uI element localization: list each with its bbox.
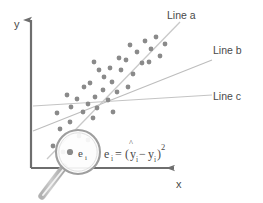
data-point xyxy=(97,68,102,73)
data-point xyxy=(143,39,148,44)
data-point xyxy=(163,42,168,47)
formula-minus: − xyxy=(139,147,146,161)
data-point xyxy=(140,61,145,66)
residual-formula: e i = ( ^ y i − y i ) 2 xyxy=(104,138,165,164)
magnifier: e i xyxy=(42,130,100,196)
magnifier-handle-highlight xyxy=(43,168,65,195)
magnifier-error-label-subscript: i xyxy=(85,154,87,162)
data-point xyxy=(135,50,140,55)
data-point xyxy=(51,144,56,149)
formula-lhs: e xyxy=(104,147,109,161)
data-point xyxy=(124,58,129,63)
data-point xyxy=(55,111,60,116)
figure-canvas: e i y x Line a Line b Line c e i = ( ^ y… xyxy=(0,0,263,203)
data-point xyxy=(108,66,113,71)
data-point xyxy=(111,110,116,115)
line-c-label: Line c xyxy=(213,90,241,102)
formula-y-obs-subscript: i xyxy=(154,155,156,164)
data-point xyxy=(110,80,115,85)
data-point xyxy=(102,75,107,80)
magnified-data-point xyxy=(67,149,73,155)
data-point xyxy=(68,120,73,125)
data-point xyxy=(101,88,106,93)
data-point xyxy=(95,106,100,111)
data-point xyxy=(91,116,96,121)
formula-y-hat-subscript: i xyxy=(136,155,138,164)
formula-lhs-subscript: i xyxy=(111,154,113,163)
data-point xyxy=(81,110,86,115)
y-axis-label: y xyxy=(14,18,20,30)
magnifier-error-label: e xyxy=(78,147,83,159)
regression-residual-figure: e i y x Line a Line b Line c e i = ( ^ y… xyxy=(0,0,263,203)
formula-equals: = xyxy=(115,147,122,161)
x-axis-label: x xyxy=(176,178,182,190)
line-b-label: Line b xyxy=(213,44,242,56)
data-point xyxy=(65,93,70,98)
data-point xyxy=(117,56,122,61)
data-point xyxy=(128,43,133,48)
data-point xyxy=(158,54,163,59)
line-c xyxy=(33,95,212,106)
formula-exponent: 2 xyxy=(161,142,165,152)
data-point xyxy=(69,105,74,110)
data-point xyxy=(92,60,97,65)
data-point xyxy=(106,98,111,103)
data-point xyxy=(147,60,152,65)
formula-open-paren: ( xyxy=(125,147,129,161)
data-point xyxy=(82,85,87,90)
data-point xyxy=(115,90,120,95)
data-point xyxy=(93,95,98,100)
data-point xyxy=(75,97,80,102)
data-point xyxy=(119,68,124,73)
data-point xyxy=(131,72,136,77)
data-point xyxy=(88,81,93,86)
data-point xyxy=(58,127,63,132)
line-a-label: Line a xyxy=(167,9,196,21)
data-point xyxy=(126,85,131,90)
data-point xyxy=(86,102,91,107)
data-point xyxy=(149,47,154,52)
data-point xyxy=(154,35,159,40)
